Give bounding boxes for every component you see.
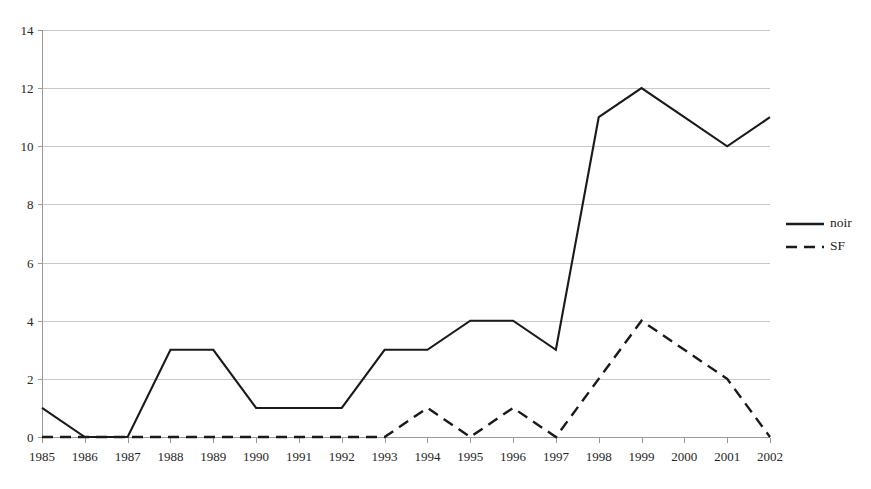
x-tick-label-1989: 1989 <box>200 449 226 464</box>
x-tick-label-1997: 1997 <box>543 449 570 464</box>
x-tick-label-1999: 1999 <box>629 449 655 464</box>
x-tick-label-1992: 1992 <box>329 449 355 464</box>
x-tick-label-1987: 1987 <box>115 449 142 464</box>
x-tick-label-2000: 2000 <box>671 449 697 464</box>
chart-legend: noirSF <box>786 215 852 253</box>
x-tick-label-1998: 1998 <box>586 449 612 464</box>
series-line-sf <box>42 321 770 437</box>
x-tick-label-1988: 1988 <box>157 449 183 464</box>
x-tick-label-1990: 1990 <box>243 449 269 464</box>
chart-canvas: 02468101214 1985198619871988198919901991… <box>0 0 871 489</box>
x-tick-label-2002: 2002 <box>757 449 783 464</box>
y-tick-label-8: 8 <box>27 197 34 212</box>
y-tick-label-10: 10 <box>21 139 34 154</box>
x-axis: 1985198619871988198919901991199219931994… <box>29 438 783 464</box>
y-tick-label-4: 4 <box>27 314 34 329</box>
x-tick-label-1996: 1996 <box>500 449 527 464</box>
x-tick-label-1995: 1995 <box>457 449 483 464</box>
series-line-noir <box>42 88 770 437</box>
x-tick-label-1985: 1985 <box>29 449 55 464</box>
legend-label-noir: noir <box>830 215 852 230</box>
gridlines <box>42 31 770 380</box>
y-tick-label-12: 12 <box>21 81 34 96</box>
legend-label-sf: SF <box>830 238 846 253</box>
x-tick-label-2001: 2001 <box>714 449 740 464</box>
y-tick-label-14: 14 <box>21 23 35 38</box>
line-chart: 02468101214 1985198619871988198919901991… <box>0 0 871 489</box>
data-series <box>42 88 770 437</box>
y-tick-label-6: 6 <box>27 256 34 271</box>
x-tick-label-1993: 1993 <box>372 449 398 464</box>
x-tick-label-1986: 1986 <box>72 449 99 464</box>
y-axis: 02468101214 <box>21 23 43 445</box>
x-tick-label-1991: 1991 <box>286 449 312 464</box>
x-tick-label-1994: 1994 <box>414 449 441 464</box>
y-tick-label-0: 0 <box>27 430 34 445</box>
y-tick-label-2: 2 <box>27 372 34 387</box>
